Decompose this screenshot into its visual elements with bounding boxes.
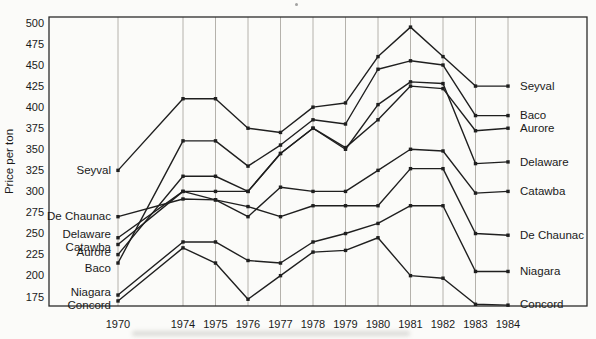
series-marker-concord-1980 [376, 236, 379, 239]
series-marker-catawba-1983 [474, 191, 477, 194]
series-marker-niagara-1974 [181, 240, 184, 243]
y-tick-label-350: 350 [26, 143, 44, 155]
right-series-label-catawba: Catawba [520, 185, 566, 197]
series-marker-de-chaunac-1978 [311, 204, 314, 207]
series-marker-concord-1978 [311, 250, 314, 253]
series-marker-seyval-1977 [279, 131, 282, 134]
series-marker-baco-1977 [279, 143, 282, 146]
right-series-label-delaware: Delaware [520, 156, 569, 168]
x-tick-label-1977: 1977 [268, 318, 292, 330]
x-tick-label-1978: 1978 [301, 318, 325, 330]
series-marker-baco-1979 [344, 122, 347, 125]
series-marker-catawba-1981 [409, 148, 412, 151]
x-tick-label-1974: 1974 [171, 318, 195, 330]
series-marker-de-chaunac-1976 [246, 205, 249, 208]
x-tick-label-1976: 1976 [236, 318, 260, 330]
y-tick-label-500: 500 [26, 17, 44, 29]
series-marker-baco-1976 [246, 164, 249, 167]
series-marker-aurore-1984 [506, 127, 509, 130]
series-marker-aurore-1975 [214, 175, 217, 178]
y-tick-label-450: 450 [26, 59, 44, 71]
series-marker-niagara-1980 [376, 222, 379, 225]
y-tick-label-325: 325 [26, 164, 44, 176]
series-marker-concord-1981 [409, 274, 412, 277]
x-tick-label-1982: 1982 [431, 318, 455, 330]
series-marker-seyval-1975 [214, 97, 217, 100]
series-marker-seyval-1980 [376, 55, 379, 58]
series-marker-aurore-1970 [116, 253, 119, 256]
series-marker-niagara-1979 [344, 232, 347, 235]
y-tick-label-225: 225 [26, 248, 44, 260]
y-tick-label-175: 175 [26, 291, 44, 303]
series-marker-baco-1982 [441, 63, 444, 66]
series-marker-baco-1970 [116, 261, 119, 264]
y-tick-label-400: 400 [26, 101, 44, 113]
series-marker-delaware-1984 [506, 160, 509, 163]
series-marker-niagara-1984 [506, 270, 509, 273]
series-marker-concord-1970 [116, 299, 119, 302]
series-marker-concord-1974 [181, 246, 184, 249]
series-marker-seyval-1979 [344, 101, 347, 104]
series-marker-seyval-1974 [181, 97, 184, 100]
series-marker-delaware-1978 [311, 127, 314, 130]
x-tick-label-1981: 1981 [398, 318, 422, 330]
series-marker-concord-1976 [246, 298, 249, 301]
series-marker-seyval-1984 [506, 84, 509, 87]
series-marker-seyval-1976 [246, 127, 249, 130]
series-marker-catawba-1984 [506, 190, 509, 193]
chart-canvas: 1752002252502753003253503754004254504755… [0, 0, 596, 339]
grape-price-line-chart: 1752002252502753003253503754004254504755… [0, 0, 596, 339]
series-marker-aurore-1981 [409, 84, 412, 87]
scan-speck [295, 3, 298, 6]
right-series-label-de-chaunac: De Chaunac [520, 229, 584, 241]
series-marker-de-chaunac-1974 [181, 197, 184, 200]
y-tick-label-250: 250 [26, 227, 44, 239]
series-marker-seyval-1981 [409, 25, 412, 28]
series-marker-baco-1978 [311, 118, 314, 121]
series-marker-de-chaunac-1983 [474, 232, 477, 235]
series-marker-concord-1982 [441, 276, 444, 279]
series-marker-delaware-1981 [409, 80, 412, 83]
series-marker-niagara-1982 [441, 204, 444, 207]
series-marker-de-chaunac-1975 [214, 198, 217, 201]
series-marker-concord-1975 [214, 261, 217, 264]
series-marker-seyval-1978 [311, 105, 314, 108]
series-marker-de-chaunac-1984 [506, 234, 509, 237]
series-marker-catawba-1980 [376, 169, 379, 172]
series-marker-concord-1984 [506, 303, 509, 306]
series-marker-de-chaunac-1980 [376, 204, 379, 207]
series-marker-concord-1983 [474, 303, 477, 306]
series-marker-de-chaunac-1981 [409, 167, 412, 170]
series-marker-de-chaunac-1977 [279, 215, 282, 218]
series-marker-catawba-1974 [181, 190, 184, 193]
series-marker-de-chaunac-1979 [344, 204, 347, 207]
series-marker-delaware-1977 [279, 152, 282, 155]
left-series-label-de-chaunac: De Chaunac [47, 210, 111, 222]
y-tick-label-200: 200 [26, 269, 44, 281]
series-marker-baco-1974 [181, 139, 184, 142]
x-tick-label-1980: 1980 [366, 318, 390, 330]
right-series-label-baco: Baco [520, 109, 546, 121]
series-marker-baco-1984 [506, 114, 509, 117]
left-series-label-delaware: Delaware [62, 228, 111, 240]
y-axis-title: Price per ton [3, 129, 15, 194]
series-marker-de-chaunac-1982 [441, 167, 444, 170]
left-series-label-niagara: Niagara [71, 286, 112, 298]
series-marker-catawba-1977 [279, 185, 282, 188]
series-marker-delaware-1980 [376, 103, 379, 106]
x-tick-label-1970: 1970 [106, 318, 130, 330]
left-series-label-aurore: Aurore [76, 246, 111, 258]
series-marker-seyval-1982 [441, 55, 444, 58]
series-marker-catawba-1970 [116, 243, 119, 246]
y-tick-label-425: 425 [26, 80, 44, 92]
series-marker-baco-1975 [214, 139, 217, 142]
series-marker-concord-1979 [344, 249, 347, 252]
x-tick-label-1984: 1984 [496, 318, 520, 330]
series-marker-niagara-1976 [246, 259, 249, 262]
series-marker-niagara-1978 [311, 240, 314, 243]
series-marker-niagara-1983 [474, 270, 477, 273]
series-marker-concord-1977 [279, 274, 282, 277]
x-tick-label-1979: 1979 [333, 318, 357, 330]
right-series-label-aurore: Aurore [520, 122, 555, 134]
series-marker-niagara-1975 [214, 240, 217, 243]
